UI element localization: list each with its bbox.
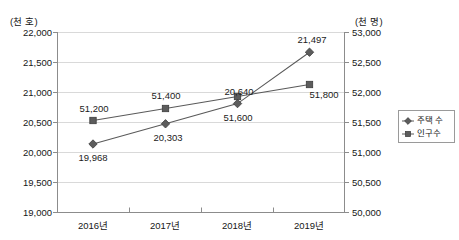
- value-label-housing-2017: 20,303: [153, 132, 182, 143]
- x-label-2016: 2016년: [78, 218, 108, 232]
- diamond-marker-icon: [402, 116, 414, 126]
- left-axis-ticks: [53, 33, 57, 213]
- series-population-line: [93, 85, 310, 121]
- series-housing-markers: [89, 48, 314, 148]
- value-label-housing-2019: 21,497: [297, 34, 326, 45]
- chart-legend: 주택 수 인구수: [398, 110, 455, 143]
- dual-axis-line-chart: (천 호) (천 명) 22,000 21,500 21,000 20,500 …: [0, 0, 459, 240]
- right-axis-ticks: [345, 33, 349, 213]
- value-label-housing-2018: 20,640: [224, 86, 253, 97]
- series-housing-line: [93, 52, 310, 144]
- value-label-population-2019: 51,800: [309, 89, 338, 100]
- x-label-2019: 2019년: [294, 218, 324, 232]
- square-marker-icon: [402, 129, 414, 139]
- value-label-housing-2016: 19,968: [78, 152, 107, 163]
- value-label-population-2018: 51,600: [223, 112, 252, 123]
- value-label-population-2017: 51,400: [151, 90, 180, 101]
- value-label-population-2016: 51,200: [79, 103, 108, 114]
- legend-item-population[interactable]: 인구수: [402, 127, 452, 140]
- x-label-2018: 2018년: [222, 218, 252, 232]
- x-label-2017: 2017년: [150, 218, 180, 232]
- legend-label-population: 인구수: [417, 127, 441, 140]
- x-axis-ticks: [130, 208, 274, 213]
- legend-item-housing[interactable]: 주택 수: [402, 114, 452, 127]
- legend-label-housing: 주택 수: [417, 114, 443, 127]
